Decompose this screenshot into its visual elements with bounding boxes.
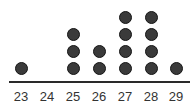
data-dot	[67, 62, 80, 75]
data-dot	[93, 62, 106, 75]
data-dot	[119, 11, 132, 24]
tick-label: 26	[87, 89, 111, 104]
data-dot	[93, 45, 106, 58]
data-dot	[170, 62, 183, 75]
data-dot	[145, 11, 158, 24]
tick-label: 25	[61, 89, 85, 104]
data-dot	[145, 28, 158, 41]
data-dot	[67, 45, 80, 58]
tick-label: 24	[35, 89, 59, 104]
data-dot	[145, 62, 158, 75]
data-dot	[15, 62, 28, 75]
dot-plot: 23 24 25 26 27 28 29	[0, 0, 193, 106]
tick-label: 29	[164, 89, 188, 104]
tick-label: 27	[113, 89, 137, 104]
x-axis-line	[9, 81, 190, 83]
data-dot	[119, 28, 132, 41]
tick-label: 23	[9, 89, 33, 104]
data-dot	[67, 28, 80, 41]
tick-label: 28	[139, 89, 163, 104]
data-dot	[119, 45, 132, 58]
data-dot	[119, 62, 132, 75]
data-dot	[145, 45, 158, 58]
